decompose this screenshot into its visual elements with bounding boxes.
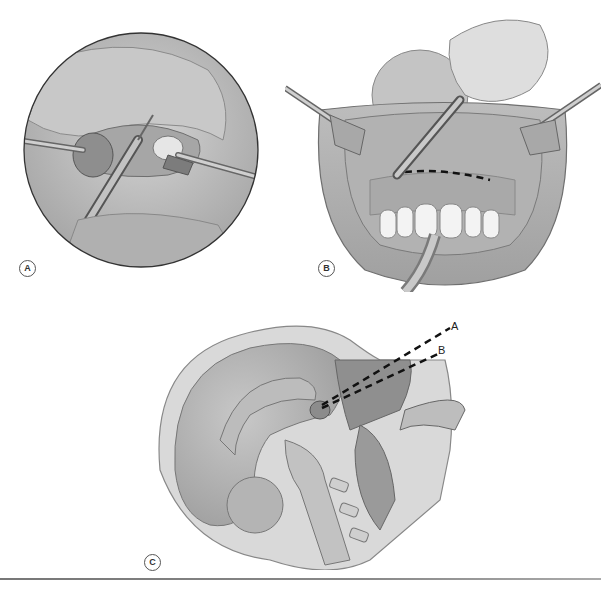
- panel-c: [150, 300, 480, 570]
- panel-b: [285, 0, 601, 292]
- panel-label-c: C: [144, 554, 161, 571]
- panel-label-a: A: [19, 260, 36, 277]
- trajectory-label-b: B: [438, 344, 445, 356]
- panel-b-illustration: [285, 0, 601, 292]
- panel-a: [18, 30, 268, 275]
- figure-caption: [40, 583, 560, 592]
- caption-divider: [0, 578, 601, 580]
- panel-label-b: B: [318, 260, 335, 277]
- panel-c-illustration: [150, 300, 480, 570]
- trajectory-label-a: A: [451, 320, 458, 332]
- panel-a-illustration: [18, 30, 268, 275]
